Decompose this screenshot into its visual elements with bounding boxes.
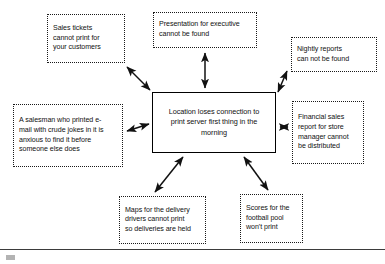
cause-box-presentation[interactable]: Presentation for executive cannot be fou…: [153, 12, 257, 48]
cause-line: anxious to find it before: [19, 136, 117, 146]
cause-box-sales-tickets[interactable]: Sales tickets cannot print for your cust…: [47, 14, 125, 63]
cause-line: someone else does: [19, 145, 117, 155]
cause-line: Scores for the: [246, 204, 297, 214]
cause-box-maps-delivery[interactable]: Maps for the delivery drivers cannot pri…: [119, 196, 206, 244]
effect-line: morning: [158, 128, 270, 138]
cause-line: Maps for the delivery: [125, 206, 200, 216]
cause-line: manager cannot: [298, 133, 358, 143]
cause-line: so deliveries are held: [125, 225, 200, 235]
cause-line: A salesman who printed e-: [19, 116, 117, 126]
cause-line: drivers cannot print: [125, 215, 200, 225]
connector-nightly-reports-to-center: [278, 71, 287, 92]
cause-box-financial-sales-report[interactable]: Financial sales report for store manager…: [292, 101, 364, 164]
cause-line: Nightly reports: [297, 45, 371, 55]
cause-box-salesman-email[interactable]: A salesman who printed e- mail with crud…: [13, 104, 123, 167]
cause-line: Financial sales: [298, 113, 358, 123]
cause-line: Sales tickets: [53, 24, 119, 34]
connector-salesman-email-to-center: [127, 124, 149, 131]
footer-divider: [0, 249, 385, 250]
cause-line: mail with crude jokes in it is: [19, 126, 117, 136]
connector-sales-tickets-to-center: [127, 67, 150, 90]
cause-line: cannot be found: [159, 30, 251, 40]
cause-box-nightly-reports[interactable]: Nightly reports can not be found: [291, 37, 377, 72]
central-effect-box[interactable]: Location loses connection to print serve…: [152, 92, 276, 153]
page-corner-mark: [6, 255, 15, 260]
cause-line: your customers: [53, 43, 119, 53]
cause-line: Presentation for executive: [159, 20, 251, 30]
cause-line: be distributed: [298, 142, 358, 152]
cause-box-football-pool[interactable]: Scores for the football pool won't print: [240, 194, 303, 243]
cause-line: can not be found: [297, 55, 371, 65]
effect-line: Location loses connection to: [158, 107, 270, 117]
cause-line: won't print: [246, 223, 297, 233]
connector-football-pool-to-center: [244, 157, 268, 190]
diagram-canvas: Sales tickets cannot print for your cust…: [0, 0, 385, 264]
cause-line: cannot print for: [53, 34, 119, 44]
connector-maps-delivery-to-center: [155, 157, 183, 192]
cause-line: report for store: [298, 123, 358, 133]
effect-line: print server first thing in the: [158, 117, 270, 127]
cause-line: football pool: [246, 214, 297, 224]
